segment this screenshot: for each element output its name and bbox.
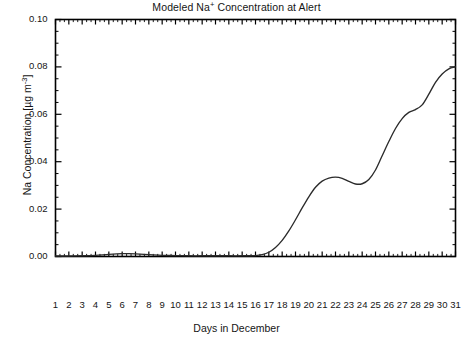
- chart-figure: Modeled Na+ Concentration at Alert Na Co…: [0, 0, 473, 342]
- y-axis-ticks: [56, 20, 456, 257]
- axis-box: [56, 20, 456, 257]
- axis-frame: [56, 20, 456, 257]
- x-axis-ticks: [56, 20, 456, 257]
- plot-area: [0, 0, 473, 342]
- data-series-line: [56, 67, 456, 256]
